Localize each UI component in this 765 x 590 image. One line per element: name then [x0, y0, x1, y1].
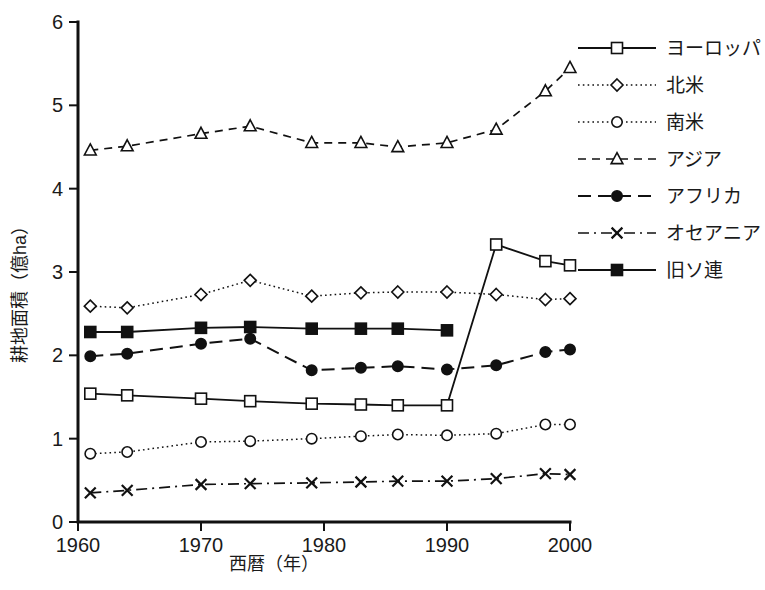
data-point-marker [491, 428, 501, 438]
data-point-marker [392, 323, 403, 334]
data-point-marker [441, 286, 453, 298]
data-point-marker [307, 365, 317, 375]
x-axis-title: 西暦（年） [229, 554, 319, 574]
x-tick-label: 1980 [302, 534, 347, 556]
data-point-marker [442, 400, 453, 411]
data-point-marker [122, 390, 133, 401]
data-point-marker [307, 433, 317, 443]
series-line [90, 68, 570, 150]
data-point-marker [565, 260, 576, 271]
data-point-marker [355, 323, 366, 334]
data-point-marker [122, 348, 132, 358]
data-point-marker [442, 430, 452, 440]
y-tick-label: 1 [52, 428, 63, 450]
legend-item-3[interactable]: アジア [578, 149, 722, 170]
data-point-marker [84, 300, 96, 312]
data-point-marker [196, 322, 207, 333]
data-point-marker [355, 136, 367, 147]
data-point-marker [85, 351, 95, 361]
data-point-marker [122, 447, 132, 457]
tick-layer [69, 22, 570, 531]
data-point-marker [540, 468, 551, 479]
y-tick-label: 5 [52, 94, 63, 116]
data-point-marker [121, 140, 133, 151]
data-point-marker [356, 363, 366, 373]
data-point-marker [85, 327, 96, 338]
data-point-marker [355, 399, 366, 410]
data-point-marker [539, 294, 551, 306]
x-tick-label: 1960 [56, 534, 101, 556]
series-layer [84, 61, 576, 498]
data-point-marker [540, 419, 550, 429]
x-tick-label: 2000 [548, 534, 593, 556]
legend-label: 旧ソ連 [666, 260, 723, 281]
series-line [90, 245, 570, 406]
chart-container: 012345619601970198019902000 ヨーロッパ北米南米アジア… [0, 0, 765, 590]
data-point-marker [564, 61, 576, 72]
data-point-marker [540, 347, 550, 357]
data-point-marker [85, 448, 95, 458]
legend-item-1[interactable]: 北米 [578, 75, 704, 96]
data-point-marker [491, 473, 502, 484]
data-point-marker [196, 338, 206, 348]
data-point-marker [245, 322, 256, 333]
data-point-marker [612, 191, 622, 201]
data-point-marker [245, 396, 256, 407]
data-point-marker [306, 398, 317, 409]
series-3 [84, 61, 575, 155]
data-point-marker [491, 239, 502, 250]
data-point-marker [392, 400, 403, 411]
data-point-marker [356, 431, 366, 441]
y-tick-label: 6 [52, 11, 63, 33]
axis-layer [78, 22, 570, 522]
data-point-marker [306, 136, 318, 147]
data-point-marker [122, 327, 133, 338]
data-point-marker [611, 79, 623, 91]
data-point-marker [564, 293, 576, 305]
data-point-marker [612, 265, 623, 276]
data-point-marker [612, 117, 622, 127]
data-point-marker [245, 333, 255, 343]
data-point-marker [393, 429, 403, 439]
legend-label: オセアニア [666, 223, 761, 244]
y-axis-title: 耕地面積（億ha） [10, 217, 30, 363]
data-point-marker [565, 419, 575, 429]
y-tick-label: 2 [52, 344, 63, 366]
legend-item-6[interactable]: 旧ソ連 [578, 260, 723, 281]
data-point-marker [442, 364, 452, 374]
data-point-marker [85, 388, 96, 399]
legend-item-0[interactable]: ヨーロッパ [578, 38, 761, 59]
data-point-marker [121, 302, 133, 314]
data-point-marker [392, 286, 404, 298]
legend-label: 北米 [666, 75, 704, 96]
data-point-marker [490, 123, 502, 134]
data-point-marker [245, 436, 255, 446]
data-point-marker [356, 477, 367, 488]
y-tick-label: 3 [52, 261, 63, 283]
data-point-marker [540, 256, 551, 267]
chart-axes [78, 22, 570, 522]
legend-item-2[interactable]: 南米 [578, 112, 704, 133]
y-tick-label: 4 [52, 178, 63, 200]
line-chart: 012345619601970198019902000 ヨーロッパ北米南米アジア… [0, 0, 765, 590]
legend-label: 南米 [666, 112, 704, 133]
data-point-marker [611, 153, 623, 164]
data-point-marker [196, 479, 207, 490]
x-tick-label: 1990 [425, 534, 470, 556]
data-point-marker [565, 344, 575, 354]
legend-item-4[interactable]: アフリカ [578, 186, 742, 207]
series-4 [85, 333, 575, 375]
x-tick-label: 1970 [179, 534, 224, 556]
legend-label: ヨーロッパ [666, 38, 761, 59]
series-1 [84, 274, 576, 314]
data-point-marker [442, 325, 453, 336]
data-point-marker [195, 289, 207, 301]
data-point-marker [612, 43, 623, 54]
legend-label: アフリカ [666, 186, 742, 207]
data-point-marker [393, 361, 403, 371]
series-0 [85, 239, 576, 411]
data-point-marker [490, 289, 502, 301]
data-point-marker [196, 393, 207, 404]
series-2 [85, 419, 575, 459]
legend-item-5[interactable]: オセアニア [578, 223, 761, 244]
